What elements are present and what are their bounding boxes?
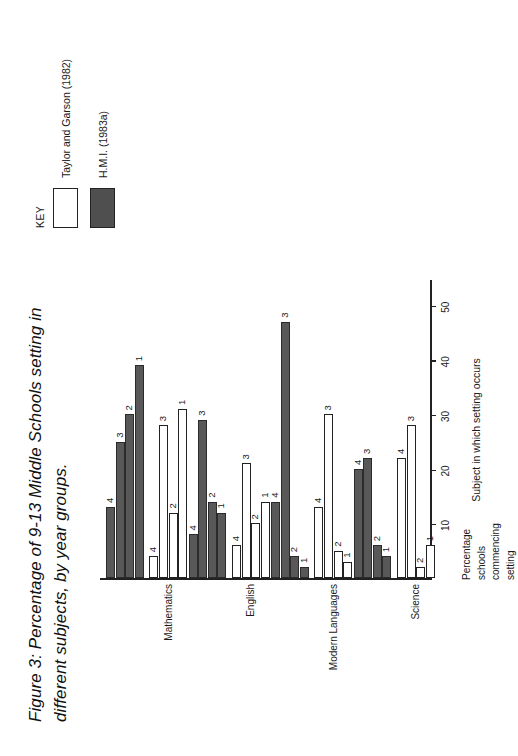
legend-label-taylor-garson: Taylor and Garson (1982) (60, 59, 72, 178)
bar-english-hmi-year4 (189, 534, 198, 578)
bar-value-label: 4 (313, 498, 322, 503)
bar-value-label: 2 (168, 503, 177, 508)
category-label-english: English (245, 584, 256, 617)
bar-mathematics-taylor-year3 (159, 425, 168, 578)
bar-value-label: 4 (148, 547, 157, 552)
value-axis-title-line-3: commencing (489, 280, 504, 580)
bar-science-taylor-year1 (426, 545, 435, 578)
bar-english-taylor-year4 (232, 545, 241, 578)
bar-value-label: 1 (425, 536, 434, 541)
bar-value-label: 3 (197, 411, 206, 416)
bar-value-label: 3 (362, 449, 371, 454)
legend: KEY Taylor and Garson (1982) H.M.I. (198… (34, 28, 127, 228)
bar-english-taylor-year3 (242, 463, 251, 578)
bar-english-taylor-year1 (261, 502, 270, 578)
bar-value-label: 1 (216, 503, 225, 508)
legend-swatch-light (53, 188, 78, 228)
bar-value-label: 1 (260, 492, 269, 497)
bar-science-taylor-year3 (407, 425, 416, 578)
bar-english-hmi-year1 (217, 513, 226, 578)
bar-modern-languages-taylor-year4 (314, 507, 323, 578)
bar-mathematics-taylor-year2 (169, 513, 178, 578)
value-tick-10 (430, 524, 436, 525)
value-tick-label-10: 10 (440, 520, 451, 531)
category-label-science: Science (410, 584, 421, 620)
bar-english-taylor-year2 (251, 523, 260, 578)
bar-modern-languages-hmi-year1 (300, 567, 309, 578)
bar-value-label: 1 (381, 547, 390, 552)
bar-value-label: 3 (280, 312, 289, 317)
bar-mathematics-hmi-year4 (106, 507, 115, 578)
bar-science-taylor-year4 (397, 458, 406, 578)
bar-science-hmi-year3 (363, 458, 372, 578)
bar-value-label: 2 (289, 547, 298, 552)
bar-value-label: 2 (207, 492, 216, 497)
bar-modern-languages-taylor-year3 (324, 414, 333, 578)
category-axis-title: Subject in which setting occurs (470, 280, 482, 580)
value-tick-label-50: 50 (440, 302, 451, 313)
bar-value-label: 2 (372, 536, 381, 541)
bar-mathematics-taylor-year4 (149, 556, 158, 578)
bar-english-hmi-year3 (198, 420, 207, 578)
bar-mathematics-hmi-year2 (125, 414, 134, 578)
value-tick-label-20: 20 (440, 465, 451, 476)
bar-science-hmi-year1 (382, 556, 391, 578)
bar-value-label: 2 (124, 405, 133, 410)
bar-value-label: 3 (115, 432, 124, 437)
legend-item-taylor-garson: Taylor and Garson (1982) (53, 28, 78, 228)
value-tick-50 (430, 306, 436, 307)
bar-value-label: 4 (231, 536, 240, 541)
bar-value-label: 3 (323, 405, 332, 410)
value-tick-20 (430, 470, 436, 471)
bar-value-label: 2 (333, 541, 342, 546)
bar-modern-languages-taylor-year1 (343, 562, 352, 578)
value-tick-30 (430, 415, 436, 416)
legend-item-hmi: H.M.I. (1983a) (90, 28, 115, 228)
legend-title: KEY (34, 28, 46, 228)
value-tick-label-40: 40 (440, 356, 451, 367)
bar-value-label: 1 (134, 356, 143, 361)
bar-modern-languages-hmi-year4 (271, 502, 280, 578)
bar-science-hmi-year4 (354, 469, 363, 578)
bar-science-taylor-year2 (416, 567, 425, 578)
bar-value-label: 4 (353, 460, 362, 465)
bar-value-label: 3 (406, 416, 415, 421)
figure-title: Figure 3: Percentage of 9-13 Middle Scho… (24, 302, 73, 722)
bar-value-label: 3 (158, 416, 167, 421)
category-axis-line (100, 578, 430, 580)
value-axis-title-line-4: setting (504, 280, 518, 580)
figure-title-line-1: Figure 3: Percentage of 9-13 Middle Scho… (26, 307, 45, 722)
figure-title-line-2: different subjects, by year groups. (51, 463, 70, 722)
value-axis-title: Percentage schools commencing setting (460, 280, 518, 580)
bar-value-label: 2 (415, 558, 424, 563)
bar-value-label: 4 (396, 449, 405, 454)
bar-value-label: 4 (270, 492, 279, 497)
value-tick-label-30: 30 (440, 411, 451, 422)
bar-mathematics-taylor-year1 (178, 409, 187, 578)
bar-value-label: 2 (250, 514, 259, 519)
bar-english-hmi-year2 (208, 502, 217, 578)
legend-label-hmi: H.M.I. (1983a) (97, 111, 109, 178)
bar-value-label: 4 (188, 525, 197, 530)
bar-value-label: 1 (342, 552, 351, 557)
category-label-mathematics: Mathematics (163, 584, 174, 641)
legend-swatch-dark (90, 188, 115, 228)
bar-chart-plot-area: 1020304050 43214321432143214321432143214… (100, 280, 430, 580)
category-label-modern-languages: Modern Languages (328, 584, 339, 670)
bar-value-label: 3 (241, 454, 250, 459)
bar-value-label: 1 (299, 558, 308, 563)
bar-mathematics-hmi-year1 (135, 365, 144, 578)
bar-mathematics-hmi-year3 (116, 442, 125, 578)
bar-value-label: 1 (177, 400, 186, 405)
bar-modern-languages-hmi-year3 (281, 322, 290, 578)
bar-value-label: 4 (105, 498, 114, 503)
value-tick-40 (430, 360, 436, 361)
